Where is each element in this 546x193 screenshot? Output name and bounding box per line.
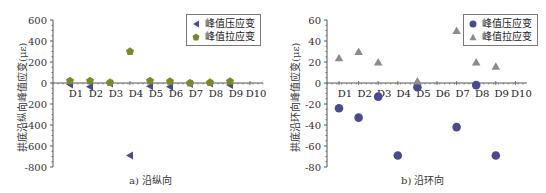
y-tick-label: -40 — [305, 120, 321, 131]
data-point — [166, 77, 174, 85]
legend-item-tensile: 峰值拉应变 — [192, 30, 255, 43]
data-point — [472, 58, 481, 66]
y-tick-label: -60 — [305, 141, 321, 152]
x-tick-label: D4 — [129, 88, 143, 99]
triangle-up-icon — [469, 33, 477, 41]
data-point — [374, 58, 383, 66]
data-point — [86, 77, 94, 85]
y-tick-label: 400 — [28, 36, 47, 47]
y-tick-label: -800 — [25, 162, 47, 173]
x-tick-label: D2 — [89, 88, 103, 99]
x-tick-label: D7 — [455, 88, 469, 99]
x-tick-label: D10 — [246, 88, 267, 99]
legend-item-compressive: 峰值压应变 — [469, 17, 532, 30]
data-point — [335, 104, 344, 113]
chart-panel-longitudinal: 6004002000-200-400-600-800D1D2D3D4D5D6D7… — [0, 0, 273, 193]
legend: 峰值压应变 峰值拉应变 — [463, 14, 538, 46]
circle-icon — [469, 20, 477, 28]
y-tick-label: 0 — [315, 78, 321, 89]
data-point — [452, 123, 461, 132]
y-axis-label: 拱底沿环向峰值应变(με) — [287, 43, 302, 152]
data-point — [146, 77, 154, 85]
figure-caption: b) 沿环向 — [401, 172, 444, 187]
x-tick-label: D6 — [436, 88, 450, 99]
figure-caption: a) 沿纵向 — [129, 172, 172, 187]
x-tick-label: D7 — [189, 88, 203, 99]
y-tick-label: 200 — [28, 57, 47, 68]
y-tick-label: 60 — [308, 15, 321, 26]
data-point — [354, 113, 363, 122]
legend-label: 峰值拉应变 — [205, 30, 255, 43]
x-tick-label: D5 — [149, 88, 163, 99]
data-point — [472, 81, 481, 90]
legend-label: 峰值拉应变 — [482, 30, 532, 43]
x-tick-label: D4 — [397, 88, 411, 99]
y-tick-label: 600 — [28, 15, 47, 26]
data-point — [126, 151, 133, 159]
data-point — [66, 77, 74, 85]
x-tick-label: D10 — [511, 88, 532, 99]
pentagon-icon — [192, 33, 200, 41]
data-point — [126, 47, 134, 55]
x-tick-label: D2 — [357, 88, 371, 99]
data-point — [413, 77, 422, 85]
y-axis-label: 拱底沿纵向峰值应变(με) — [14, 43, 29, 152]
x-tick-label: D1 — [338, 88, 352, 99]
data-point — [354, 48, 363, 56]
data-point — [374, 92, 383, 101]
chart-panel-circumferential: 6040200-20-40-60-80D1D2D3D4D5D6D7D8D9D10… — [273, 0, 546, 193]
y-tick-label: -20 — [305, 99, 321, 110]
x-tick-label: D9 — [495, 88, 509, 99]
legend-item-compressive: 峰值压应变 — [192, 17, 255, 30]
y-tick-label: 40 — [308, 36, 321, 47]
data-point — [492, 62, 501, 69]
triangle-left-icon — [192, 20, 200, 28]
data-point — [335, 54, 344, 62]
x-tick-label: D8 — [475, 88, 489, 99]
y-tick-label: 0 — [41, 78, 47, 89]
x-tick-label: D6 — [169, 88, 183, 99]
data-point — [394, 151, 403, 160]
legend: 峰值压应变 峰值拉应变 — [186, 14, 261, 46]
data-point — [186, 79, 194, 87]
legend-label: 峰值压应变 — [205, 17, 255, 30]
y-tick-label: -80 — [305, 162, 321, 173]
data-point — [452, 27, 461, 35]
x-tick-label: D9 — [229, 88, 243, 99]
data-point — [226, 77, 234, 85]
data-point — [206, 78, 214, 86]
legend-item-tensile: 峰值拉应变 — [469, 30, 532, 43]
legend-label: 峰值压应变 — [482, 17, 532, 30]
x-tick-label: D3 — [109, 88, 123, 99]
x-tick-label: D1 — [69, 88, 83, 99]
x-tick-label: D8 — [209, 88, 223, 99]
data-point — [492, 151, 501, 160]
data-point — [106, 78, 114, 86]
y-tick-label: 20 — [308, 57, 321, 68]
